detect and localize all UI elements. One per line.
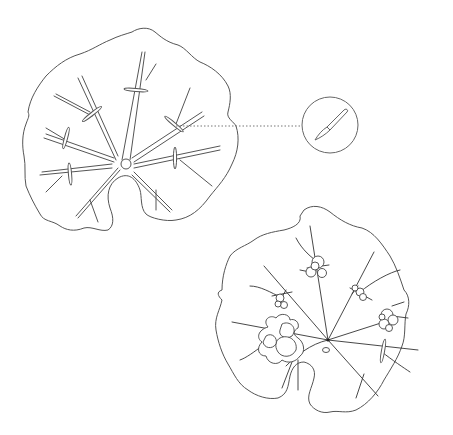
growth-leaf: [216, 206, 418, 412]
leaf-propagation-diagram: [0, 0, 453, 435]
callout-circle: [302, 97, 358, 153]
plantlet-large: [259, 314, 304, 363]
illustration: [0, 0, 453, 435]
leaf-petiole-end: [323, 348, 330, 353]
scalpel-callout: [302, 97, 358, 153]
leaf-hub: [326, 338, 329, 341]
leaf-center: [121, 159, 131, 169]
cut-leaf: [23, 28, 238, 230]
